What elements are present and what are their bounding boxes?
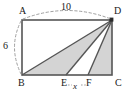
dimension-label-left: 6 — [3, 41, 8, 51]
dimension-label-top: 10 — [61, 2, 71, 12]
dimension-arc-left — [15, 21, 22, 74]
point-label-e: E — [61, 78, 67, 88]
vertex-label-d: D — [114, 6, 121, 16]
geometry-diagram: A D B C E F x 10 6 — [0, 0, 133, 94]
vertex-label-a: A — [19, 6, 26, 16]
point-label-f: F — [86, 78, 92, 88]
vertex-label-b: B — [18, 78, 25, 88]
dimension-label-x: x — [73, 82, 77, 91]
vertex-label-c: C — [115, 78, 122, 88]
